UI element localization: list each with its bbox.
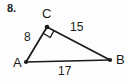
vertex-label-a: A [13, 56, 22, 69]
side-length-label-cb: 15 [70, 21, 83, 33]
vertex-dot-b [108, 58, 112, 62]
vertex-dot-c [45, 25, 50, 30]
segment-ab [26, 60, 110, 62]
vertex-label-b: B [116, 53, 125, 66]
side-length-label-ab: 17 [58, 65, 71, 77]
vertex-dot-a [24, 60, 28, 64]
side-length-label-ac: 8 [24, 31, 31, 43]
geometry-figure: 8. C A B 8 15 17 [0, 0, 128, 82]
vertex-label-c: C [42, 7, 51, 20]
problem-number: 8. [7, 3, 16, 14]
